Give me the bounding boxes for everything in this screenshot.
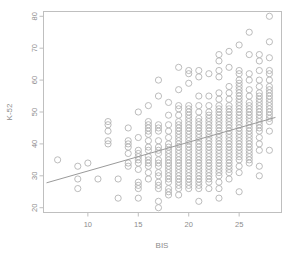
data-point bbox=[216, 67, 222, 73]
data-point bbox=[176, 87, 182, 93]
data-point bbox=[216, 179, 222, 185]
data-point bbox=[256, 83, 262, 89]
data-point bbox=[115, 195, 121, 201]
data-point bbox=[246, 77, 252, 83]
data-point bbox=[256, 163, 262, 169]
data-point bbox=[266, 55, 272, 61]
data-point bbox=[236, 170, 242, 176]
data-point bbox=[246, 93, 252, 99]
data-point bbox=[145, 176, 151, 182]
data-point bbox=[75, 185, 81, 191]
data-point bbox=[85, 160, 91, 166]
data-point bbox=[236, 189, 242, 195]
data-point bbox=[55, 157, 61, 163]
data-point bbox=[105, 128, 111, 134]
y-tick-label: 40 bbox=[30, 140, 39, 148]
data-point bbox=[266, 39, 272, 45]
scatter-plot-figure: 10152025 20304050607080 BIS K-52 bbox=[0, 0, 291, 263]
data-point bbox=[216, 90, 222, 96]
data-point bbox=[176, 64, 182, 70]
data-point bbox=[256, 173, 262, 179]
data-point bbox=[256, 58, 262, 64]
data-point bbox=[206, 93, 212, 99]
data-point bbox=[125, 150, 131, 156]
data-point bbox=[256, 77, 262, 83]
data-point bbox=[196, 93, 202, 99]
data-point bbox=[196, 74, 202, 80]
x-axis-tick-labels: 10152025 bbox=[84, 220, 244, 229]
data-point bbox=[256, 141, 262, 147]
data-point bbox=[236, 42, 242, 48]
x-axis-tick-marks bbox=[88, 213, 239, 217]
y-tick-label: 80 bbox=[30, 12, 39, 20]
data-point bbox=[165, 134, 171, 140]
data-point bbox=[216, 58, 222, 64]
x-tick-label: 15 bbox=[134, 220, 142, 229]
data-point bbox=[266, 128, 272, 134]
data-point bbox=[226, 83, 232, 89]
x-tick-label: 10 bbox=[84, 220, 92, 229]
data-point bbox=[196, 109, 202, 115]
data-point bbox=[196, 67, 202, 73]
data-point bbox=[246, 71, 252, 77]
data-point bbox=[155, 138, 161, 144]
data-point bbox=[176, 112, 182, 118]
data-point bbox=[236, 163, 242, 169]
data-points bbox=[55, 13, 273, 211]
data-point bbox=[145, 103, 151, 109]
data-point bbox=[145, 138, 151, 144]
data-point bbox=[165, 112, 171, 118]
y-tick-label: 70 bbox=[30, 44, 39, 52]
data-point bbox=[196, 198, 202, 204]
data-point bbox=[226, 64, 232, 70]
data-point bbox=[256, 51, 262, 57]
data-point bbox=[226, 96, 232, 102]
y-tick-label: 60 bbox=[30, 76, 39, 84]
data-point bbox=[206, 185, 212, 191]
data-point bbox=[176, 192, 182, 198]
data-point bbox=[216, 51, 222, 57]
plot-canvas: 10152025 20304050607080 BIS K-52 bbox=[0, 0, 291, 263]
data-point bbox=[135, 195, 141, 201]
data-point bbox=[155, 77, 161, 83]
data-point bbox=[256, 134, 262, 140]
data-point bbox=[266, 147, 272, 153]
data-point bbox=[165, 122, 171, 128]
data-point bbox=[115, 176, 121, 182]
data-point bbox=[165, 99, 171, 105]
data-point bbox=[165, 128, 171, 134]
data-point bbox=[206, 71, 212, 77]
data-point bbox=[216, 96, 222, 102]
data-point bbox=[196, 103, 202, 109]
data-point bbox=[216, 185, 222, 191]
y-axis-tick-labels: 20304050607080 bbox=[30, 12, 39, 212]
data-point bbox=[246, 29, 252, 35]
data-point bbox=[125, 125, 131, 131]
x-tick-label: 25 bbox=[235, 220, 243, 229]
x-axis-title: BIS bbox=[156, 241, 169, 250]
data-point bbox=[186, 80, 192, 86]
data-point bbox=[155, 198, 161, 204]
x-tick-label: 20 bbox=[185, 220, 193, 229]
data-point bbox=[226, 176, 232, 182]
y-tick-label: 20 bbox=[30, 204, 39, 212]
data-point bbox=[216, 74, 222, 80]
data-point bbox=[135, 166, 141, 172]
data-point bbox=[256, 67, 262, 73]
data-point bbox=[95, 176, 101, 182]
data-point bbox=[145, 170, 151, 176]
data-point bbox=[135, 109, 141, 115]
data-point bbox=[256, 147, 262, 153]
data-point bbox=[75, 163, 81, 169]
y-tick-label: 30 bbox=[30, 172, 39, 180]
y-tick-label: 50 bbox=[30, 108, 39, 116]
data-point bbox=[266, 77, 272, 83]
data-point bbox=[75, 176, 81, 182]
data-point bbox=[216, 195, 222, 201]
data-point bbox=[266, 13, 272, 19]
data-point bbox=[246, 87, 252, 93]
data-point bbox=[206, 103, 212, 109]
data-point bbox=[226, 48, 232, 54]
data-point bbox=[226, 90, 232, 96]
data-point bbox=[246, 51, 252, 57]
